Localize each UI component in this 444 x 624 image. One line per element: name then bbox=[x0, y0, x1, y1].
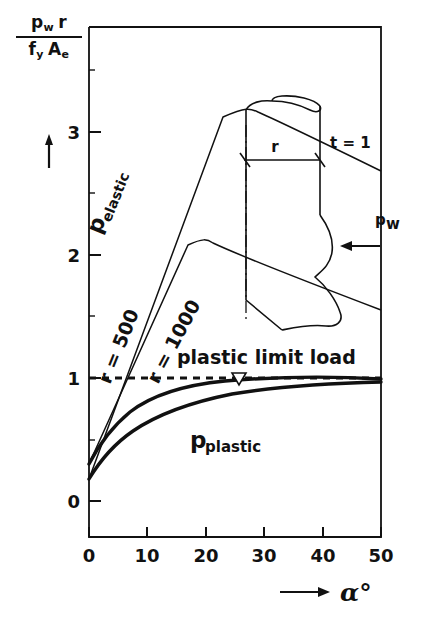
chart-svg: 3 2 1 0 0 10 20 30 40 50 α° bbox=[0, 0, 444, 624]
label-p-plastic: p plastic bbox=[190, 427, 261, 456]
plot-frame bbox=[89, 27, 381, 537]
label-p-plastic-p: p bbox=[190, 427, 206, 453]
curve-p-elastic-r1000 bbox=[89, 109, 381, 479]
label-p-plastic-sub: plastic bbox=[205, 438, 261, 456]
y-axis-ticks bbox=[89, 70, 101, 501]
y-tick-label-3: 3 bbox=[67, 122, 80, 143]
x-tick-label-40: 40 bbox=[310, 545, 335, 566]
x-tick-label-0: 0 bbox=[83, 545, 96, 566]
x-axis-title-arrow-icon bbox=[280, 587, 330, 597]
x-axis-title: α° bbox=[340, 578, 372, 607]
y-tick-label-0: 0 bbox=[67, 491, 80, 512]
curve-p-plastic-r1000 bbox=[89, 382, 381, 479]
label-p-elastic-sub: elastic bbox=[98, 170, 132, 224]
inset-shell-sketch: r t = 1 p w bbox=[240, 96, 400, 330]
y-tick-label-1: 1 bbox=[67, 368, 80, 389]
y-axis-tick-labels: 3 2 1 0 bbox=[67, 122, 80, 512]
inset-label-thickness: t = 1 bbox=[330, 134, 371, 152]
x-axis-tick-labels: 0 10 20 30 40 50 bbox=[83, 545, 394, 566]
inset-label-pressure-p: p bbox=[375, 211, 386, 229]
inset-label-radius: r bbox=[271, 138, 279, 156]
y-axis-direction-arrow-icon bbox=[45, 134, 53, 168]
inset-pressure-arrow-icon bbox=[340, 241, 380, 251]
x-tick-label-30: 30 bbox=[251, 545, 276, 566]
x-tick-label-20: 20 bbox=[193, 545, 218, 566]
inset-label-pressure-sub: w bbox=[386, 215, 400, 233]
inset-label-pressure: p w bbox=[375, 211, 400, 233]
figure-root: pw r fy Ae 3 2 1 bbox=[0, 0, 444, 624]
label-r-500: r = 500 bbox=[93, 306, 143, 387]
label-plastic-limit-load: plastic limit load bbox=[177, 346, 356, 368]
x-tick-label-10: 10 bbox=[134, 545, 159, 566]
x-axis-ticks bbox=[89, 527, 381, 537]
y-tick-label-2: 2 bbox=[67, 245, 80, 266]
x-tick-label-50: 50 bbox=[368, 545, 393, 566]
